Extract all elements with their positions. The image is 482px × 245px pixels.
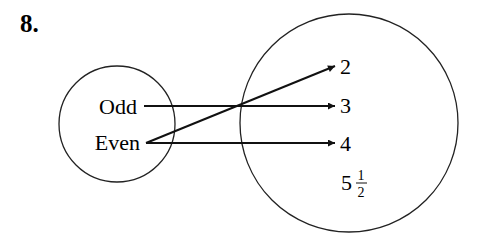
range-item-4: 4 [340, 131, 351, 156]
fraction-denominator: 2 [358, 185, 365, 200]
problem-number: 8. [20, 10, 39, 37]
range-item-2: 2 [340, 54, 351, 79]
fraction-numerator: 1 [358, 168, 365, 183]
range-item-3: 3 [340, 93, 351, 118]
range-circle [240, 14, 458, 232]
domain-item-even: Even [95, 130, 140, 155]
domain-item-odd: Odd [99, 94, 137, 119]
mixed-whole: 5 [341, 170, 352, 195]
mapping-diagram: 8. Odd Even 2 3 4 5 1 2 [0, 0, 482, 245]
range-item-mixed-number: 5 1 2 [341, 168, 367, 200]
domain-circle [59, 66, 175, 182]
